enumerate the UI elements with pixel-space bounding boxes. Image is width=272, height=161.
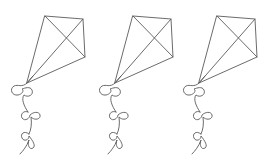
kite-icon bbox=[172, 0, 272, 161]
kite-3: kite-3 bbox=[172, 0, 272, 161]
kite-1: kite-1 bbox=[0, 0, 100, 161]
illustration-canvas: kite-1 kite-2 bbox=[0, 0, 272, 161]
kite-icon bbox=[0, 0, 100, 161]
